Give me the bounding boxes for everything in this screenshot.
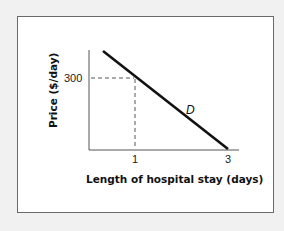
y-axis-title: Price ($/day) [47, 53, 59, 128]
demand-chart: 300 1 3 D Length of hospital stay (days)… [0, 0, 284, 231]
y-tick-300: 300 [64, 72, 82, 84]
demand-curve [103, 51, 228, 149]
x-axis-title: Length of hospital stay (days) [86, 173, 263, 185]
x-tick-1: 1 [132, 153, 138, 165]
x-tick-3: 3 [225, 153, 231, 165]
curve-label-d: D [186, 103, 195, 117]
